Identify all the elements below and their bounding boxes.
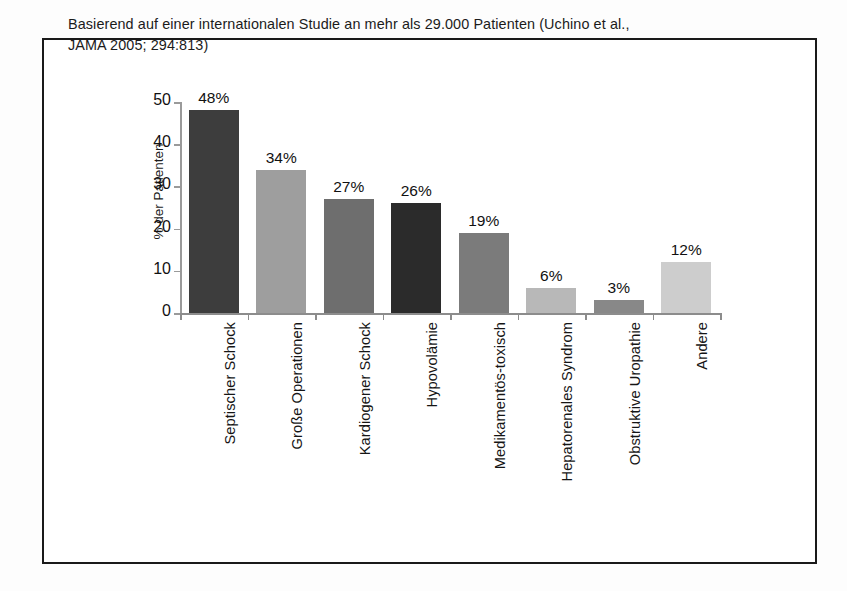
bar-4: 26% [391, 203, 441, 313]
x-category-label: Obstruktive Uropathie [627, 322, 643, 465]
x-tick-mark [720, 313, 722, 320]
y-tick-label: 30 [153, 175, 171, 193]
title-line-2: JAMA 2005; 294:813) [68, 35, 728, 56]
x-tick-mark [383, 313, 385, 320]
bar-2: 34% [256, 170, 306, 313]
bar-value-label: 27% [333, 178, 364, 196]
x-tick-mark [518, 313, 520, 320]
x-category-label: Andere [694, 322, 710, 370]
bar-1: 48% [189, 110, 239, 313]
bar-value-label: 26% [401, 182, 432, 200]
title-line-1: Basierend auf einer internationalen Stud… [68, 14, 728, 35]
bar-group: 48%34%27%26%19%6%3%12% [180, 102, 720, 313]
axes: 01020304050 48%34%27%26%19%6%3%12% [180, 102, 720, 314]
bar-value-label: 19% [468, 212, 499, 230]
x-category-label: Kardiogener Schock [357, 322, 373, 455]
y-tick-label: 40 [153, 133, 171, 151]
bar-value-label: 48% [198, 89, 229, 107]
x-tick-mark [248, 313, 250, 320]
bar-6: 6% [526, 288, 576, 313]
bar-7: 3% [594, 300, 644, 313]
figure-page: Basierend auf einer internationalen Stud… [0, 0, 847, 591]
y-tick-label: 20 [153, 218, 171, 236]
x-tick-mark [180, 313, 182, 320]
x-category-label: Große Operationen [289, 322, 305, 449]
x-category-label: Medikamentös-toxisch [492, 322, 508, 469]
bar-8: 12% [661, 262, 711, 313]
bar-value-label: 12% [671, 241, 702, 259]
x-category-label: Septischer Schock [222, 322, 238, 445]
x-tick-mark [450, 313, 452, 320]
x-axis-category-labels: Septischer SchockGroße OperationenKardio… [180, 322, 720, 512]
y-tick-label: 0 [162, 302, 171, 320]
plot-area: % der Patienten 01020304050 48%34%27%26%… [92, 66, 732, 506]
bar-value-label: 34% [266, 149, 297, 167]
bar-value-label: 6% [540, 267, 562, 285]
x-tick-mark [653, 313, 655, 320]
y-tick-label: 50 [153, 91, 171, 109]
x-tick-mark [315, 313, 317, 320]
x-category-label: Hepatorenales Syndrom [559, 322, 575, 481]
bar-5: 19% [459, 233, 509, 313]
bar-3: 27% [324, 199, 374, 313]
chart-title: Basierend auf einer internationalen Stud… [68, 14, 728, 56]
y-tick-label: 10 [153, 260, 171, 278]
x-category-label: Hypovolämie [424, 322, 440, 407]
x-tick-mark [585, 313, 587, 320]
bar-value-label: 3% [608, 279, 630, 297]
